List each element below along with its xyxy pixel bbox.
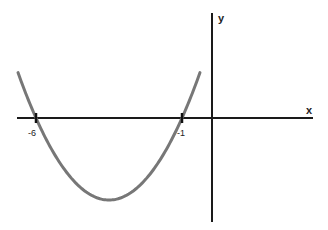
parabola-graph: -6 -1 y x <box>0 0 328 230</box>
y-axis-label: y <box>218 12 225 24</box>
tick-label-neg1: -1 <box>177 128 185 138</box>
x-axis-label: x <box>306 104 313 116</box>
tick-label-neg6: -6 <box>28 128 36 138</box>
parabola-curve <box>18 73 200 200</box>
